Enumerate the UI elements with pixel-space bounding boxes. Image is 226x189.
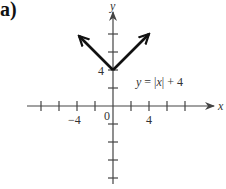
graph-left-branch	[79, 36, 113, 70]
x-tick-label-4: 4	[146, 113, 152, 127]
y-axis-label: y	[109, 0, 116, 13]
x-tick-label-neg4: −4	[68, 113, 81, 127]
x-axis-label: x	[217, 99, 224, 113]
origin-label: 0	[104, 109, 110, 123]
graph: y x −4 4 0 4 y = |x| + 4	[0, 0, 226, 189]
y-tick-label-4: 4	[98, 64, 104, 78]
graph-right-branch	[113, 34, 149, 70]
equation-label: y = |x| + 4	[135, 75, 183, 89]
